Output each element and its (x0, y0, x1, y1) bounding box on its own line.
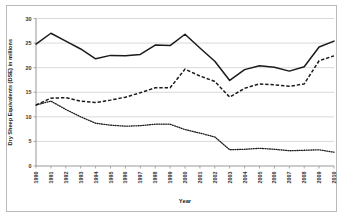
x-tick-label: 1997 (137, 172, 143, 184)
y-tick-label: 20 (26, 65, 32, 71)
y-tick-label: 10 (26, 114, 32, 120)
data-series-group (36, 33, 334, 152)
x-tick-label: 1993 (78, 172, 84, 184)
x-tick-label: 1990 (33, 172, 39, 184)
x-tick-label: 2001 (197, 172, 203, 184)
x-tick-label: 2003 (227, 172, 233, 184)
y-axis-ticks-group: 051015202530 (26, 16, 37, 170)
x-tick-label: 2002 (212, 172, 218, 184)
y-tick-label: 15 (26, 89, 32, 95)
gridlines-group (36, 19, 334, 142)
x-tick-label: 1992 (63, 172, 69, 184)
x-tick-label: 2000 (182, 172, 188, 184)
x-tick-label: 1996 (122, 172, 128, 184)
x-tick-label: 1991 (48, 172, 54, 184)
y-tick-label: 5 (29, 138, 32, 144)
x-tick-label: 2008 (301, 172, 307, 184)
series-line-dotted (36, 101, 334, 152)
x-tick-label: 2009 (316, 172, 322, 184)
x-tick-label: 2007 (286, 172, 292, 184)
x-tick-label: 2005 (257, 172, 263, 184)
x-tick-label: 1999 (167, 172, 173, 184)
y-axis-title: Dry Sheep Equivalents (DSE) in millions (7, 39, 13, 146)
x-tick-label: 2004 (242, 172, 248, 184)
x-tick-label: 2006 (271, 172, 277, 184)
y-tick-label: 25 (26, 40, 32, 46)
line-chart-plot: 051015202530 199019911992199319941995199… (0, 0, 345, 219)
x-axis-title: Year (179, 198, 192, 204)
series-line-dashed (36, 56, 334, 105)
series-line-solid (36, 33, 334, 80)
y-tick-label: 0 (29, 163, 32, 169)
x-tick-label: 1998 (152, 172, 158, 184)
x-tick-label: 1995 (108, 172, 114, 184)
y-tick-label: 30 (26, 16, 32, 22)
x-axis-ticks-group: 1990199119921993199419951996199719981999… (33, 166, 337, 184)
x-tick-label: 1994 (93, 172, 99, 184)
chart-container: 051015202530 199019911992199319941995199… (0, 0, 345, 219)
x-tick-label: 2010 (331, 172, 337, 184)
